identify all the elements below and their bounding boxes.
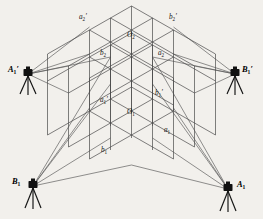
station-label-A1: A1 (236, 180, 246, 190)
node-labels-group: a2′ O2 b2′ b2 a2 a1′ b1′ O1 b1 a1 (79, 13, 177, 155)
node-label-a2: a2 (158, 49, 165, 58)
sight-line-a1-1 (153, 57, 229, 189)
node-label-b1p: b1′ (155, 89, 163, 98)
node-label-O2: O2 (127, 31, 135, 40)
node-label-b1: b1 (101, 146, 108, 155)
station-label-A1-prime: A1′ (7, 65, 19, 75)
node-label-a1: a1 (164, 126, 171, 135)
theodolite-icon (220, 182, 236, 213)
theodolite-B1[interactable]: B1 (11, 177, 41, 209)
node-label-b2: b2 (100, 49, 107, 58)
sight-line-b1p-3 (174, 54, 236, 74)
theodolite-B1-prime[interactable]: B1′ (227, 65, 253, 95)
survey-lattice-figure: a2′ O2 b2′ b2 a2 a1′ b1′ O1 b1 a1 A1′ B1… (0, 0, 263, 219)
node-label-b2p: b2′ (169, 13, 177, 22)
sight-line-b1-5 (33, 165, 132, 186)
station-label-B1: B1 (11, 177, 21, 187)
sight-line-b1-3 (33, 108, 90, 186)
theodolite-A1-prime[interactable]: A1′ (7, 65, 36, 95)
sight-line-a1p-1 (28, 27, 90, 74)
sight-line-a1p-3 (28, 54, 90, 74)
sight-line-a1-3 (174, 108, 229, 189)
theodolite-icon (227, 67, 243, 96)
theodolite-icon (25, 179, 41, 210)
sight-line-b1p-1 (174, 27, 236, 74)
theodolite-icon (20, 67, 36, 96)
sight-line-a1-4 (153, 138, 229, 189)
station-label-B1-prime: B1′ (241, 65, 253, 75)
node-label-a1p: a1′ (100, 96, 108, 105)
node-label-a2p: a2′ (79, 13, 87, 22)
theodolite-A1[interactable]: A1 (220, 180, 246, 212)
